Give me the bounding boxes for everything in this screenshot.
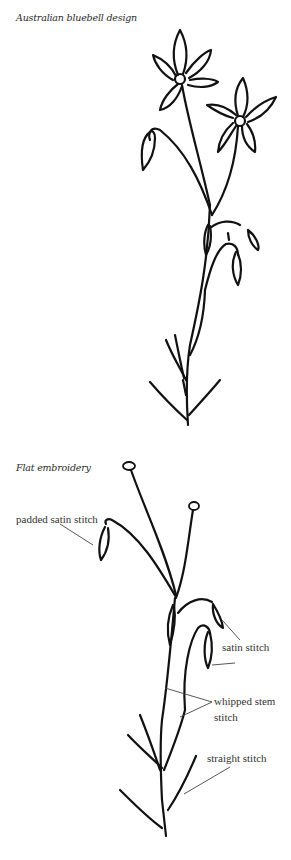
label-whipped-stem-stitch-line1: whipped stem — [214, 694, 275, 708]
label-whipped-stem-stitch-line2: stitch — [214, 710, 238, 724]
french-knot-icon — [189, 502, 199, 510]
french-knot-icon — [123, 462, 135, 470]
leader-line — [165, 688, 212, 717]
leader-line — [60, 524, 93, 545]
leader-line — [184, 767, 230, 794]
label-padded-satin-stitch: padded satin stitch — [16, 512, 98, 526]
flat-embroidery-illustration — [0, 0, 291, 860]
leader-line — [222, 620, 240, 640]
leader-line — [212, 663, 235, 665]
label-satin-stitch: satin stitch — [222, 640, 269, 654]
label-straight-stitch: straight stitch — [207, 751, 267, 765]
